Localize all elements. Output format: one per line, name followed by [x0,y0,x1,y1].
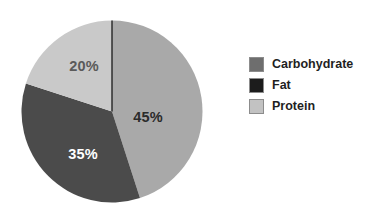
legend-swatch-fat [249,78,264,93]
pie-chart-svg [21,20,203,203]
legend-swatch-carbohydrate [249,57,264,72]
legend-item-carbohydrate[interactable]: Carbohydrate [249,54,377,75]
legend-item-protein[interactable]: Protein [249,96,377,117]
legend-swatch-protein [249,99,264,114]
legend-label-protein: Protein [272,100,315,113]
pie-chart-figure: 45% 35% 20% Carbohydrate Fat Protein [0,0,381,221]
legend-label-carbohydrate: Carbohydrate [272,58,353,71]
chart-legend: Carbohydrate Fat Protein [249,54,377,117]
pie-chart-plot-area: 45% 35% 20% [21,20,203,203]
legend-item-fat[interactable]: Fat [249,75,377,96]
legend-label-fat: Fat [272,79,291,92]
